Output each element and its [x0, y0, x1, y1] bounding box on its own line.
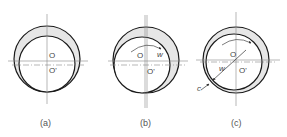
caption-c: (c): [231, 118, 242, 128]
caption-b: (b): [140, 118, 151, 128]
label-c: c: [197, 84, 201, 93]
clearance-c-arrow: [201, 84, 209, 90]
figure-b: O w O' (b): [108, 15, 188, 128]
label-o: O: [230, 50, 236, 59]
label-o: O: [49, 51, 55, 60]
label-o-prime: O': [147, 67, 155, 76]
label-o-prime: O': [49, 66, 57, 75]
caption-a: (a): [40, 118, 51, 128]
label-o: O: [137, 51, 143, 60]
figure-c: O O' w c (c): [196, 12, 280, 128]
label-o-prime: O': [239, 66, 247, 75]
figure-a: O O' (a): [8, 14, 88, 128]
journal-bearing-diagram: O O' (a) O w O' (b) O O' w c (c): [0, 0, 287, 137]
